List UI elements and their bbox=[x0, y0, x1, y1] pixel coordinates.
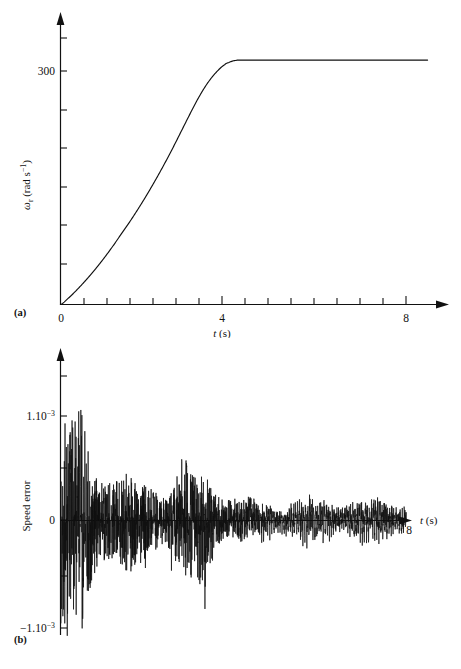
panel-b-ytick-neg-mantissa: −1.10 bbox=[20, 622, 47, 634]
panel-a-y-axis-title: ωr (rad s−1) bbox=[19, 160, 34, 210]
panel-b-ytick-positive: 1.10−3 bbox=[27, 409, 56, 422]
svg-text:ωr (rad s−1): ωr (rad s−1) bbox=[19, 160, 34, 210]
panel-b-svg: 1.10−3 0 −1.10−3 Speed error 8 t (s) (b) bbox=[0, 338, 461, 669]
panel-b-tag: (b) bbox=[14, 634, 27, 646]
panel-a-rotor-speed: 300 ωr (rad s−1) bbox=[0, 0, 461, 338]
panel-a-xlabel-units: (s) bbox=[216, 327, 231, 338]
panel-a-ylabel-close: ) bbox=[20, 160, 33, 164]
panel-b-xlabel-units: (s) bbox=[423, 514, 438, 527]
panel-b-ytick-pos-exp: −3 bbox=[47, 409, 55, 418]
panel-a-y-ticks bbox=[61, 38, 68, 264]
panel-a-ylabel-units: (rad s bbox=[20, 172, 33, 200]
x-axis-arrowhead bbox=[436, 301, 449, 309]
figure-container: 300 ωr (rad s−1) bbox=[0, 0, 461, 669]
panel-b-x-axis-title: t (s) bbox=[420, 514, 438, 527]
panel-a-tag: (a) bbox=[14, 307, 27, 319]
panel-a-ylabel-exp: −1 bbox=[19, 164, 28, 172]
panel-a-svg: 300 ωr (rad s−1) bbox=[0, 0, 461, 338]
panel-b-ytick-zero: 0 bbox=[49, 514, 55, 526]
panel-b-y-axis-title: Speed error bbox=[20, 480, 32, 531]
panel-b-ytick-negative: −1.10−3 bbox=[20, 621, 55, 634]
panel-a-xtick-0: 0 bbox=[58, 312, 64, 324]
panel-a-x-ticks bbox=[84, 296, 406, 305]
panel-b-ytick-neg-exp: −3 bbox=[47, 621, 55, 630]
panel-a-x-axis bbox=[61, 301, 450, 309]
panel-a-ytick-300: 300 bbox=[38, 65, 56, 77]
y-axis-arrowhead bbox=[57, 348, 65, 361]
panel-b-error-trace bbox=[61, 410, 407, 636]
y-axis-arrowhead bbox=[57, 12, 65, 25]
panel-a-xtick-8: 8 bbox=[403, 312, 409, 324]
panel-b-xtick-8: 8 bbox=[406, 524, 412, 536]
panel-a-y-axis bbox=[57, 12, 65, 305]
panel-b-speed-error: 1.10−3 0 −1.10−3 Speed error 8 t (s) (b) bbox=[0, 338, 461, 669]
panel-a-xtick-4: 4 bbox=[219, 312, 225, 324]
panel-a-speed-curve bbox=[61, 60, 428, 304]
panel-b-ytick-pos-mantissa: 1.10 bbox=[27, 410, 47, 422]
panel-a-x-axis-title: t (s) bbox=[213, 327, 231, 338]
